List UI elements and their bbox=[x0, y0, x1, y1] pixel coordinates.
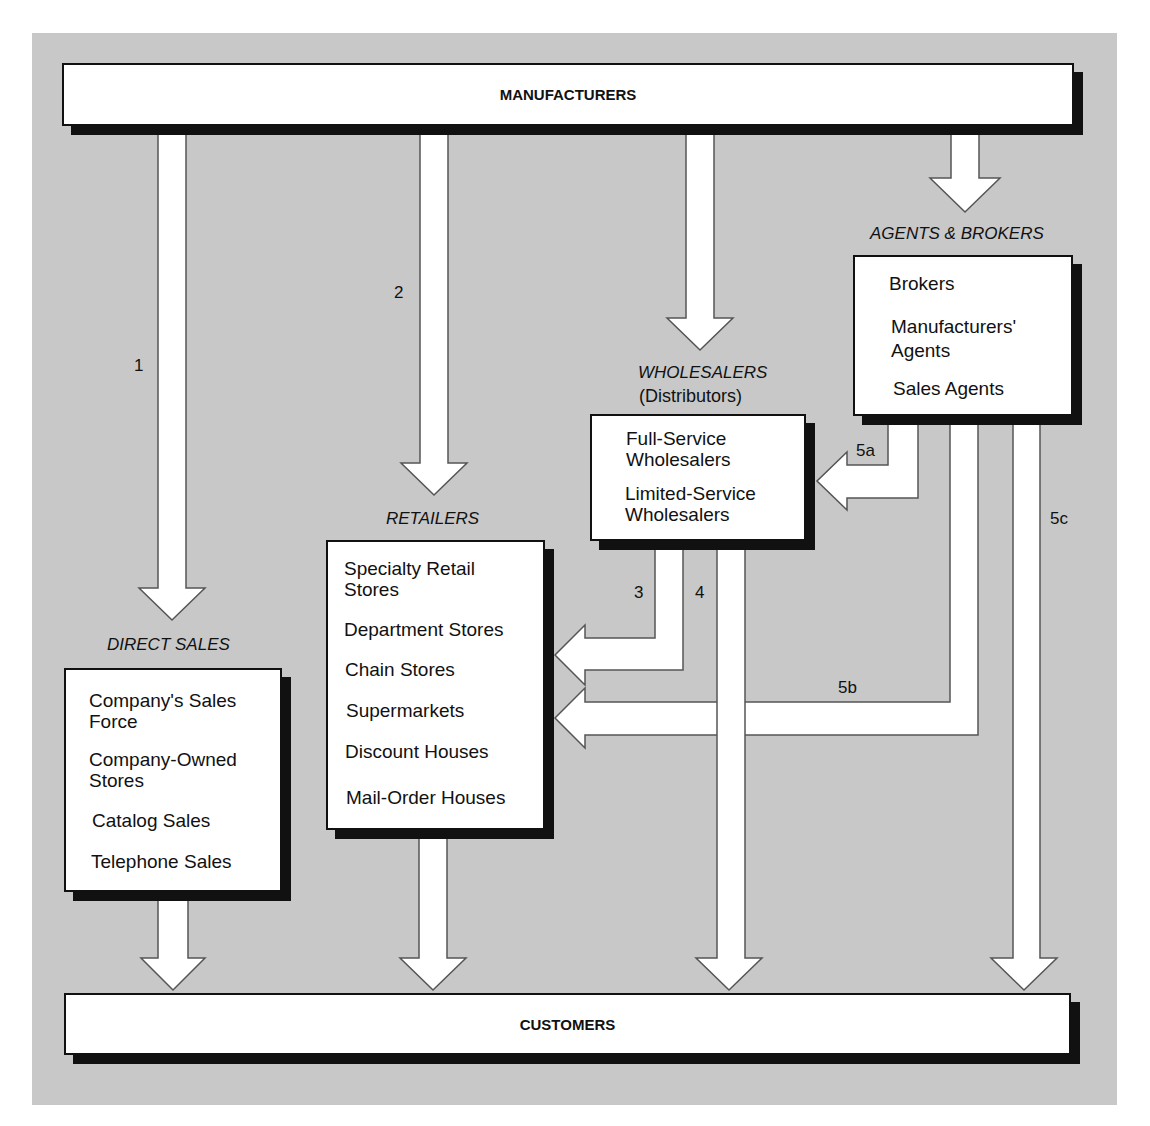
arrow-direct-to-customers bbox=[141, 895, 205, 990]
list-item: Discount Houses bbox=[345, 741, 489, 762]
list-item: Specialty Retail Stores bbox=[344, 558, 475, 600]
list-item: Company's Sales Force bbox=[89, 690, 236, 732]
retailers-box: Specialty Retail Stores Department Store… bbox=[326, 540, 545, 830]
customers-bar: CUSTOMERS bbox=[64, 993, 1071, 1055]
arrow-to-wholesalers bbox=[667, 130, 733, 350]
direct-sales-box: Company's Sales Force Company-Owned Stor… bbox=[64, 668, 282, 892]
channel-label-3: 3 bbox=[634, 583, 643, 603]
list-item: Company-Owned Stores bbox=[89, 749, 237, 791]
customers-label: CUSTOMERS bbox=[520, 1016, 616, 1033]
direct-sales-heading: DIRECT SALES bbox=[107, 635, 230, 655]
channel-label-5a: 5a bbox=[856, 441, 875, 461]
wholesalers-box: Full-Service Wholesalers Limited-Service… bbox=[590, 414, 806, 541]
channel-arrows bbox=[0, 0, 1150, 1126]
list-item: Supermarkets bbox=[346, 700, 464, 721]
channel-label-5c: 5c bbox=[1050, 509, 1068, 529]
arrow-retailers-to-customers bbox=[400, 835, 466, 990]
agents-brokers-box: Brokers Manufacturers' Agents Sales Agen… bbox=[853, 255, 1073, 416]
list-item: Limited-Service Wholesalers bbox=[625, 483, 756, 525]
wholesalers-heading: WHOLESALERS bbox=[638, 363, 767, 383]
list-item: Manufacturers' Agents bbox=[891, 315, 1016, 363]
channel-label-1: 1 bbox=[134, 356, 143, 376]
arrow-channel-3 bbox=[555, 545, 683, 685]
list-item: Full-Service Wholesalers bbox=[626, 428, 731, 470]
manufacturers-label: MANUFACTURERS bbox=[500, 86, 637, 103]
list-item: Catalog Sales bbox=[92, 810, 210, 831]
list-item: Telephone Sales bbox=[91, 851, 232, 872]
manufacturers-bar: MANUFACTURERS bbox=[62, 63, 1074, 126]
arrow-to-agents bbox=[930, 130, 1000, 212]
arrow-channel-5c bbox=[991, 415, 1057, 990]
arrow-channel-5a bbox=[817, 415, 918, 510]
agents-brokers-heading: AGENTS & BROKERS bbox=[870, 224, 1044, 244]
list-item: Brokers bbox=[889, 273, 954, 294]
arrow-channel-2 bbox=[401, 130, 467, 495]
channel-label-4: 4 bbox=[695, 583, 704, 603]
channel-label-2: 2 bbox=[394, 283, 403, 303]
list-item: Mail-Order Houses bbox=[346, 787, 505, 808]
list-item: Sales Agents bbox=[893, 378, 1004, 399]
wholesalers-subheading: (Distributors) bbox=[639, 386, 742, 407]
arrow-channel-1 bbox=[139, 130, 205, 620]
channel-label-5b: 5b bbox=[838, 678, 857, 698]
list-item: Department Stores bbox=[344, 619, 503, 640]
retailers-heading: RETAILERS bbox=[386, 509, 479, 529]
arrow-channel-4 bbox=[696, 545, 762, 990]
list-item: Chain Stores bbox=[345, 659, 455, 680]
